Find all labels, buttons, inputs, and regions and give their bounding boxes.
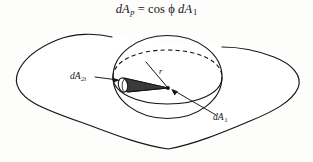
label-radius: r <box>159 67 162 76</box>
figure-container: dAp=cosϕdA1 dA2i dA1 r <box>0 0 313 162</box>
center-apex-dot <box>166 86 170 90</box>
label-da2i: dA2i <box>70 71 86 83</box>
label-da2i-symbol: dA <box>70 70 81 81</box>
label-da2i-subscript: 2i <box>81 75 87 82</box>
label-da1-subscript: 1 <box>224 116 228 123</box>
label-da1-symbol: dA <box>213 111 224 122</box>
enclosing-surface-outline <box>16 34 299 149</box>
label-da1: dA1 <box>213 112 228 124</box>
diagram-drawing <box>0 0 313 162</box>
